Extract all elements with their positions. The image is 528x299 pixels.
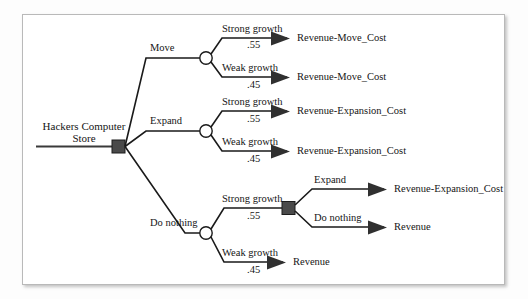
outcome-label-donothing-strong: Strong growth bbox=[222, 193, 282, 205]
payoff-expand-weak: Revenue-Expansion_Cost bbox=[297, 145, 406, 157]
probability-expand-strong: .55 bbox=[247, 113, 260, 125]
root-label: Hackers Computer Store bbox=[32, 120, 136, 145]
probability-expand-weak: .45 bbox=[247, 153, 260, 165]
payoff-move-weak: Revenue-Move_Cost bbox=[297, 71, 386, 83]
chance-node-do-nothing[interactable] bbox=[200, 227, 212, 239]
payoff-donothing-weak: Revenue bbox=[293, 256, 330, 268]
probability-move-strong: .55 bbox=[247, 39, 260, 51]
chance-node-expand[interactable] bbox=[200, 125, 212, 137]
payoff-expand-strong: Revenue-Expansion_Cost bbox=[297, 105, 406, 117]
outcome-label-donothing-weak: Weak growth bbox=[222, 247, 278, 259]
branch-label-expand: Expand bbox=[150, 115, 182, 127]
outcome-label-move-weak: Weak growth bbox=[222, 62, 278, 74]
probability-donothing-strong: .55 bbox=[247, 210, 260, 222]
sub-payoff-do-nothing: Revenue bbox=[394, 221, 431, 233]
arrowhead-sub-do-nothing bbox=[368, 221, 387, 235]
probability-move-weak: .45 bbox=[247, 79, 260, 91]
branch-label-do-nothing: Do nothing bbox=[150, 217, 198, 229]
chance-node-move[interactable] bbox=[200, 52, 212, 64]
diagram-canvas: Hackers Computer Store Move Expand Do no… bbox=[0, 0, 528, 299]
outcome-label-move-strong: Strong growth bbox=[222, 23, 282, 35]
outcome-label-expand-strong: Strong growth bbox=[222, 96, 282, 108]
sub-branch-label-do-nothing: Do nothing bbox=[314, 212, 362, 224]
edge-root-to-expand bbox=[125, 131, 200, 147]
sub-payoff-expand: Revenue-Expansion_Cost bbox=[394, 183, 503, 195]
outcome-label-expand-weak: Weak growth bbox=[222, 136, 278, 148]
probability-donothing-weak: .45 bbox=[247, 264, 260, 276]
payoff-move-strong: Revenue-Move_Cost bbox=[297, 32, 386, 44]
branch-label-move: Move bbox=[150, 42, 175, 54]
edge-root-to-move bbox=[125, 58, 200, 147]
root-label-line1: Hackers Computer bbox=[32, 120, 136, 132]
sub-decision-node[interactable] bbox=[282, 202, 295, 215]
sub-branch-label-expand: Expand bbox=[314, 174, 346, 186]
arrowhead-sub-expand bbox=[368, 183, 387, 197]
root-label-line2: Store bbox=[32, 132, 136, 144]
